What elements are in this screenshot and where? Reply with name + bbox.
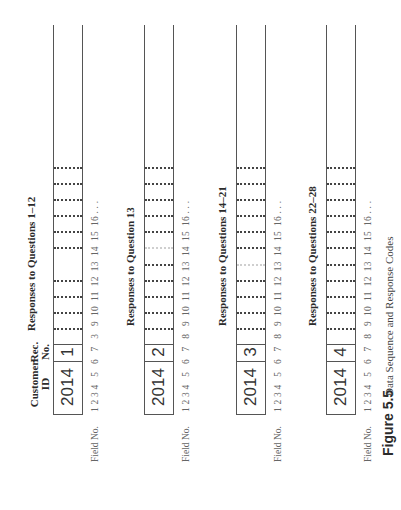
field-separator [145, 296, 173, 298]
rec-no-value: 3 [242, 344, 259, 360]
field-separator [54, 183, 82, 185]
field-separator [237, 312, 265, 314]
record-border-right [355, 25, 356, 414]
field-separator [54, 247, 82, 249]
field-separator [237, 296, 265, 298]
field-separator [145, 183, 173, 185]
field-no-label: Field No. [273, 426, 283, 462]
record-border-right [265, 25, 266, 414]
customer-id-value: 2014 [242, 368, 259, 406]
field-number-labels: 1 2 3 4 5 6 7 8 9 10 11 12 13 14 15 16 .… [273, 201, 283, 412]
field-separator [54, 328, 82, 330]
field-separator [237, 280, 265, 282]
field-separator [237, 167, 265, 169]
field-separator [327, 183, 355, 185]
responses-header: Responses to Question 13 [125, 207, 136, 326]
field-separator [237, 328, 265, 330]
field-separator [327, 167, 355, 169]
responses-header: Responses to Questions 1–12 [26, 197, 37, 331]
field-separator [327, 296, 355, 298]
field-separator [327, 247, 355, 249]
record-border-left [144, 25, 145, 414]
field-separator [327, 328, 355, 330]
responses-header: Responses to Questions 22–28 [307, 186, 318, 326]
field-separator [145, 264, 173, 266]
field-separator [237, 247, 265, 249]
field-separator [145, 247, 173, 249]
record-border-left [236, 25, 237, 414]
record-border-left [53, 25, 54, 414]
field-no-label: Field No. [363, 426, 373, 462]
field-number-labels: 1 2 3 4 5 6 7 8 9 10 11 12 13 14 15 16 .… [181, 201, 191, 412]
figure-caption: Data Sequence and Response Codes [384, 237, 395, 396]
field-separator [327, 280, 355, 282]
record-border-right [173, 25, 174, 414]
field-separator [327, 264, 355, 266]
customer-id-value: 2014 [59, 368, 76, 406]
rec-no-header-line2: No. [40, 340, 51, 364]
field-separator [327, 199, 355, 201]
field-separator [54, 296, 82, 298]
customer-id-separator [144, 361, 173, 362]
figure-number: Figure 5.5 [381, 390, 395, 456]
customer-id-value: 2014 [150, 368, 167, 406]
field-separator [145, 312, 173, 314]
field-separator [237, 199, 265, 201]
record-bottom-border [53, 414, 83, 415]
field-separator [54, 231, 82, 233]
field-separator [237, 183, 265, 185]
responses-header: Responses to Questions 14–21 [217, 186, 228, 326]
field-separator [54, 167, 82, 169]
customer-id-value: 2014 [332, 368, 349, 406]
field-separator [54, 199, 82, 201]
record-bottom-border [236, 414, 266, 415]
record-border-left [326, 25, 327, 414]
rec-no-value: 2 [150, 344, 167, 360]
field-separator [145, 280, 173, 282]
field-separator [54, 280, 82, 282]
field-separator [237, 231, 265, 233]
field-separator [145, 328, 173, 330]
field-separator [54, 312, 82, 314]
field-separator [145, 167, 173, 169]
rec-no-value: 4 [332, 344, 349, 360]
field-separator [145, 199, 173, 201]
rec-no-value: 1 [59, 344, 76, 360]
field-separator [327, 312, 355, 314]
field-separator [327, 231, 355, 233]
customer-id-separator [53, 361, 82, 362]
field-no-label: Field No. [181, 426, 191, 462]
customer-id-separator [236, 361, 265, 362]
field-number-labels: 1 2 3 4 5 6 7 3 9 10 11 12 13 14 15 16 .… [90, 201, 100, 412]
customer-id-separator [326, 361, 355, 362]
field-separator [327, 215, 355, 217]
record-bottom-border [326, 414, 356, 415]
rec-no-header: Rec. No. [29, 340, 51, 364]
field-separator [237, 264, 265, 266]
field-separator [237, 215, 265, 217]
field-separator [54, 215, 82, 217]
field-number-labels: 1 2 3 4 5 6 7 8 9 10 11 12 13 14 15 16 .… [363, 201, 373, 412]
field-separator [145, 231, 173, 233]
field-separator [145, 215, 173, 217]
record-border-right [82, 25, 83, 414]
record-bottom-border [144, 414, 174, 415]
field-no-label: Field No. [90, 426, 100, 462]
